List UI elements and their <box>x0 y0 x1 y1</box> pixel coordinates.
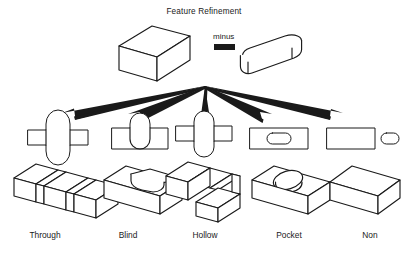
minus-label: minus <box>213 32 234 41</box>
profile-hollow <box>176 111 232 157</box>
caption-hollow: Hollow <box>192 230 218 240</box>
profile-blind <box>112 113 168 149</box>
caption-through: Through <box>29 230 61 240</box>
caption-non: Non <box>362 230 378 240</box>
profile-pocket <box>250 128 308 149</box>
caption-pocket: Pocket <box>276 230 302 240</box>
caption-blind: Blind <box>119 230 138 240</box>
minus-sign-icon <box>214 44 235 50</box>
solid-hollow <box>166 162 240 222</box>
diagram-title: Feature Refinement <box>166 7 242 16</box>
solid-non <box>330 166 400 214</box>
base-solid-box <box>119 26 190 81</box>
solid-pocket <box>252 166 330 214</box>
feature-refinement-diagram: Feature Refinement minus <box>0 0 408 257</box>
solid-through <box>14 164 118 218</box>
profile-non <box>327 128 399 149</box>
tool-solid-stadium <box>240 35 301 74</box>
